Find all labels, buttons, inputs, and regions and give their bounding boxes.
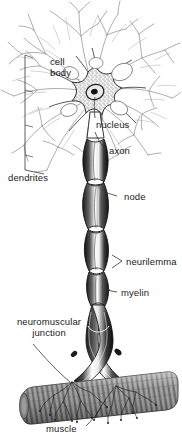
myelin-segment <box>83 139 108 182</box>
label-cell-body-line2: body <box>50 67 71 78</box>
label-nmj-line1: neuromuscular <box>6 316 92 327</box>
label-nucleus: nucleus <box>96 119 129 130</box>
nmj-leader <box>33 344 70 382</box>
label-nmj-line2: junction <box>6 327 92 338</box>
neuron-illustration <box>0 0 182 443</box>
neuron-diagram-figure: cell body nucleus axon dendrites node ne… <box>0 0 182 443</box>
muscle-fiber <box>20 372 179 424</box>
label-neurilemma: neurilemma <box>126 256 177 267</box>
myelin-segment <box>84 230 108 271</box>
label-neuromuscular-junction: neuromuscular junction <box>6 316 92 338</box>
myelin-segment <box>87 272 109 306</box>
axon-myelin-sheath <box>83 112 109 306</box>
label-cell-body-line1: cell <box>50 56 71 67</box>
label-myelin: myelin <box>121 287 149 298</box>
label-cell-body: cell body <box>50 56 71 78</box>
label-muscle: muscle <box>46 423 77 434</box>
label-axon: axon <box>109 145 130 156</box>
label-dendrites: dendrites <box>8 172 48 183</box>
label-node: node <box>124 191 146 202</box>
neurilemma-leader <box>112 255 122 268</box>
